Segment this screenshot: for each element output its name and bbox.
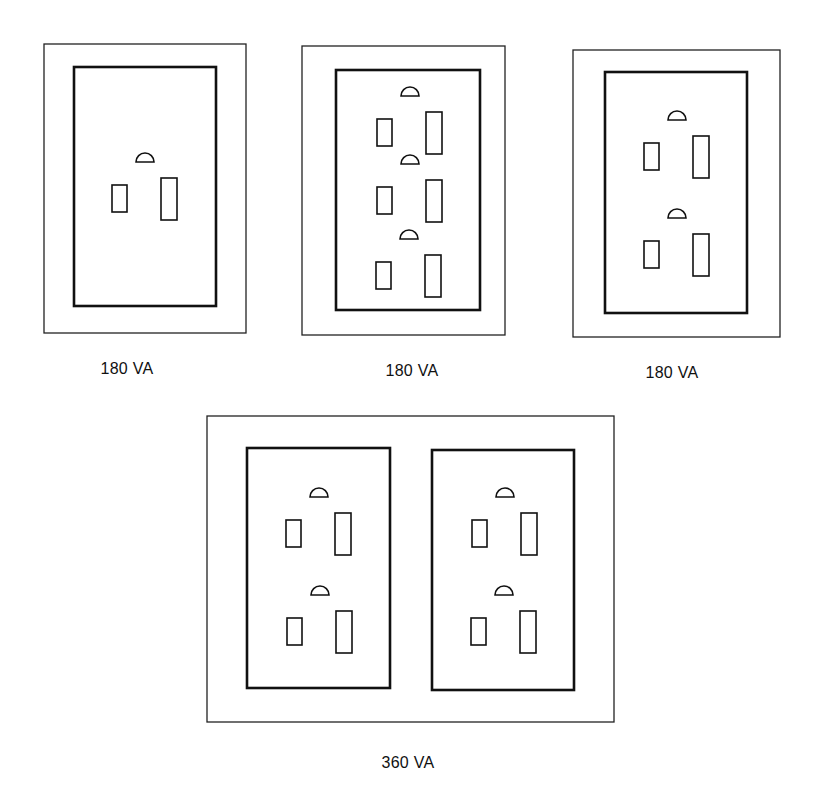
receptacle-face — [247, 448, 390, 688]
hot-slot-icon — [426, 112, 442, 154]
hot-slot-icon — [336, 611, 352, 653]
receptacle-outlet-icon — [644, 111, 709, 178]
hot-slot-icon — [425, 255, 441, 297]
hot-slot-icon — [426, 180, 442, 222]
ground-pin-icon — [310, 488, 328, 497]
wall-plate-duplex-receptacle — [573, 50, 780, 337]
neutral-slot-icon — [472, 520, 487, 547]
wall-plate-single-receptacle — [44, 44, 246, 333]
outer-plate-border — [207, 416, 614, 722]
ground-pin-icon — [311, 586, 329, 595]
wall-plate-triplex-receptacle — [302, 46, 505, 335]
ground-pin-icon — [400, 230, 418, 239]
ground-pin-icon — [668, 111, 686, 120]
receptacle-outlet-icon — [472, 488, 537, 555]
ground-pin-icon — [401, 87, 419, 96]
hot-slot-icon — [520, 611, 536, 653]
hot-slot-icon — [693, 136, 709, 178]
hot-slot-icon — [161, 178, 177, 220]
receptacle-outlet-icon — [471, 586, 536, 653]
plate-label-single: 180 VA — [100, 360, 153, 378]
neutral-slot-icon — [376, 262, 391, 289]
ground-pin-icon — [495, 586, 513, 595]
neutral-slot-icon — [286, 520, 301, 547]
neutral-slot-icon — [644, 143, 659, 170]
receptacle-outlet-icon — [112, 153, 177, 220]
receptacle-outlet-icon — [376, 230, 441, 297]
neutral-slot-icon — [377, 119, 392, 146]
receptacle-outlet-icon — [286, 488, 351, 555]
ground-pin-icon — [496, 488, 514, 497]
receptacle-outlet-icon — [377, 155, 442, 222]
plate-label-duplex: 180 VA — [645, 364, 698, 382]
neutral-slot-icon — [644, 241, 659, 268]
plate-label-triplex: 180 VA — [385, 362, 438, 380]
neutral-slot-icon — [112, 185, 127, 212]
neutral-slot-icon — [287, 618, 302, 645]
ground-pin-icon — [668, 209, 686, 218]
receptacle-diagram — [0, 0, 819, 790]
neutral-slot-icon — [471, 618, 486, 645]
hot-slot-icon — [335, 513, 351, 555]
receptacle-outlet-icon — [644, 209, 709, 276]
wall-plate-double-duplex-receptacle — [207, 416, 614, 722]
hot-slot-icon — [693, 234, 709, 276]
receptacle-outlet-icon — [287, 586, 352, 653]
hot-slot-icon — [521, 513, 537, 555]
receptacle-face — [432, 450, 574, 690]
neutral-slot-icon — [377, 187, 392, 214]
ground-pin-icon — [136, 153, 154, 162]
receptacle-outlet-icon — [377, 87, 442, 154]
receptacle-face — [74, 67, 216, 306]
ground-pin-icon — [401, 155, 419, 164]
receptacle-face — [605, 72, 747, 313]
plate-label-double-duplex: 360 VA — [381, 754, 434, 772]
receptacle-face — [336, 70, 480, 310]
